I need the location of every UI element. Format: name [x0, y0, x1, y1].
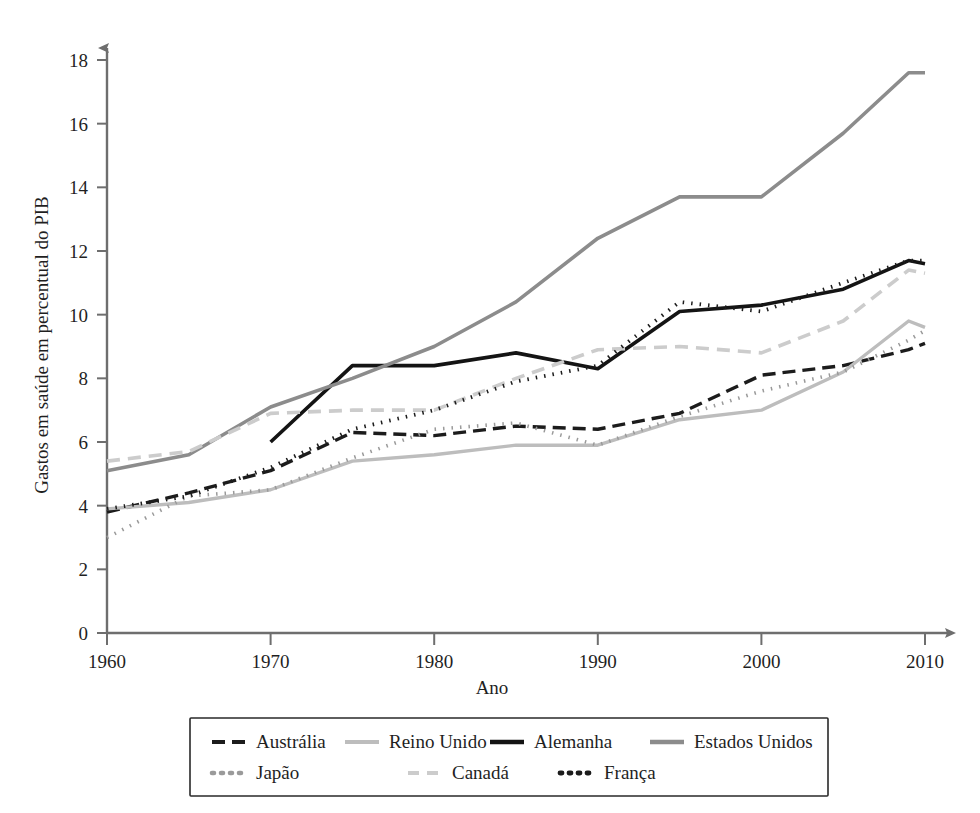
data-series-layer	[107, 73, 925, 538]
x-axis: 196019701980199020002010 Ano	[88, 633, 948, 698]
x-tick-label: 2010	[906, 651, 944, 672]
y-tick-label: 6	[79, 432, 89, 453]
x-tick-labels: 196019701980199020002010	[88, 651, 944, 672]
y-tick-label: 8	[79, 368, 89, 389]
x-tick-label: 1980	[415, 651, 453, 672]
legend-label: Japão	[256, 762, 299, 783]
y-tick-label: 12	[69, 241, 88, 262]
y-tick-label: 10	[69, 305, 88, 326]
y-tick-labels: 024681012141618	[69, 50, 89, 644]
y-tick-label: 18	[69, 50, 88, 71]
x-tick-label: 2000	[742, 651, 780, 672]
y-tick-label: 16	[69, 114, 88, 135]
legend-item[interactable]: Austrália	[212, 731, 326, 752]
legend-label: França	[604, 762, 656, 783]
y-axis: 024681012141618 Gastos em saúde em perce…	[31, 48, 107, 644]
legend-label: Reino Unido	[389, 731, 487, 752]
y-tick-label: 4	[79, 496, 89, 517]
x-tick-marks	[107, 633, 925, 645]
x-tick-label: 1970	[252, 651, 290, 672]
y-tick-label: 14	[69, 177, 89, 198]
x-tick-label: 1960	[88, 651, 126, 672]
legend-label: Canadá	[452, 762, 510, 783]
legend-item[interactable]: Japão	[212, 762, 299, 783]
y-tick-label: 2	[79, 559, 89, 580]
legend-item[interactable]: Canadá	[408, 762, 510, 783]
legend-item[interactable]: França	[560, 762, 656, 783]
series-line	[107, 343, 925, 512]
legend-border	[190, 718, 828, 796]
legend-items: AustráliaReino UnidoAlemanhaEstados Unid…	[212, 731, 813, 783]
legend: AustráliaReino UnidoAlemanhaEstados Unid…	[190, 718, 828, 796]
x-axis-title: Ano	[476, 677, 509, 698]
series-line	[107, 73, 925, 471]
y-tick-label: 0	[79, 623, 89, 644]
legend-item[interactable]: Alemanha	[490, 731, 613, 752]
legend-label: Estados Unidos	[694, 731, 813, 752]
legend-item[interactable]: Estados Unidos	[650, 731, 813, 752]
x-tick-label: 1990	[579, 651, 617, 672]
legend-label: Alemanha	[534, 731, 613, 752]
y-axis-title: Gastos em saúde em percentual do PIB	[31, 196, 52, 494]
legend-item[interactable]: Reino Unido	[345, 731, 487, 752]
legend-label: Austrália	[256, 731, 326, 752]
chart-container: 024681012141618 Gastos em saúde em perce…	[0, 0, 980, 813]
y-tick-marks	[97, 60, 107, 633]
line-chart: 024681012141618 Gastos em saúde em perce…	[0, 0, 980, 813]
